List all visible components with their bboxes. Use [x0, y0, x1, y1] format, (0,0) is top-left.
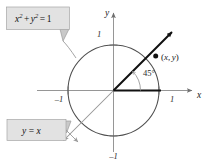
ce-value: 1 [47, 14, 52, 24]
callout-line-equation-text: y=x [21, 126, 42, 136]
tick-label-y-negative-one: –1 [108, 151, 118, 161]
callout-line-equation[interactable]: y=x [7, 120, 78, 143]
axis-label-y: y [104, 8, 110, 18]
le-equals: = [29, 126, 34, 136]
tick-label-y-positive-one: 1 [97, 29, 101, 39]
angle-arc [133, 71, 141, 90]
pl-close: ) [176, 52, 179, 62]
axis-label-x: x [196, 90, 202, 100]
point-marker [153, 54, 158, 59]
callout-circle-equation-tail [60, 29, 69, 41]
callout-circle-equation-leader [63, 41, 76, 58]
pl-comma: , [168, 52, 170, 62]
angle-label-45: 45° [143, 68, 155, 78]
tick-label-x-positive-one: 1 [170, 94, 174, 104]
math-figure: x2+y2=1 y=x –1 1 –1 1 y x 45° (x,y) [0, 0, 212, 168]
point-label-xy: (x,y) [161, 52, 179, 62]
ce-equals: = [40, 14, 45, 24]
callout-circle-equation[interactable]: x2+y2=1 [7, 7, 77, 58]
tick-label-x-negative-one: –1 [54, 94, 64, 104]
ce-operator: + [24, 14, 29, 24]
le-lhs: y [21, 126, 27, 136]
figure-canvas: x2+y2=1 y=x –1 1 –1 1 y x 45° (x,y) [0, 0, 212, 168]
le-rhs: x [36, 126, 42, 136]
